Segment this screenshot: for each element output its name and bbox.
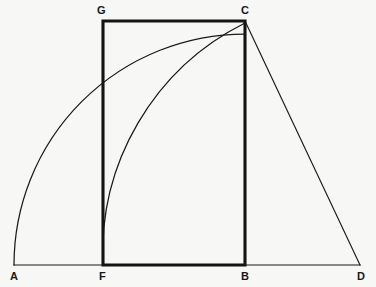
vertex-label-f: F — [99, 271, 106, 282]
geometry-canvas — [0, 0, 376, 287]
geometry-figure: A F B D G C — [0, 0, 376, 287]
figure-background — [0, 0, 376, 287]
vertex-label-c: C — [241, 5, 249, 16]
vertex-label-g: G — [97, 5, 106, 16]
vertex-label-a: A — [10, 271, 18, 282]
vertex-label-b: B — [241, 271, 249, 282]
vertex-label-d: D — [357, 271, 365, 282]
